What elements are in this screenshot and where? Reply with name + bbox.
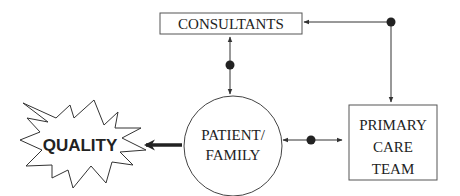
team-label-line3: TEAM xyxy=(372,161,415,177)
consultants-label: CONSULTANTS xyxy=(178,16,284,32)
quality-node: QUALITY xyxy=(20,100,146,188)
quality-label: QUALITY xyxy=(43,136,118,155)
team-label-line1: PRIMARY xyxy=(359,117,427,133)
patient-family-node: PATIENT/ FAMILY xyxy=(184,96,282,196)
patient-team-connector xyxy=(283,136,342,145)
consultants-patient-connector xyxy=(226,37,235,94)
consultants-team-connector xyxy=(304,18,396,103)
junction-dot xyxy=(307,136,316,145)
primary-care-team-node: PRIMARY CARE TEAM xyxy=(349,105,437,180)
team-label-line2: CARE xyxy=(373,139,413,155)
junction-dot xyxy=(226,61,235,70)
junction-dot xyxy=(387,18,396,27)
diagram-canvas: CONSULTANTS PATIENT/ FAMILY PRIMARY CARE… xyxy=(0,0,460,196)
consultants-node: CONSULTANTS xyxy=(160,13,302,34)
patient-label-line2: FAMILY xyxy=(206,147,261,163)
patient-label-line1: PATIENT/ xyxy=(201,127,265,143)
